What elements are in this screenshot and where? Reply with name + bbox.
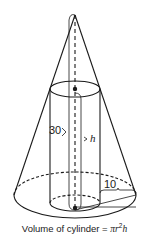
cone-right-edge xyxy=(75,15,136,195)
cone-cylinder-figure xyxy=(0,0,149,241)
label-30: 30 xyxy=(49,124,61,136)
h-bracket xyxy=(75,93,81,210)
cone-left-edge xyxy=(14,15,75,195)
top-center-dot xyxy=(73,87,77,91)
pointer-h xyxy=(84,137,87,141)
caption-prefix: Volume of cylinder = xyxy=(22,223,110,234)
base-center-dot xyxy=(73,206,77,210)
pointer-30 xyxy=(62,128,66,136)
apex-height-bracket xyxy=(69,15,75,210)
caption: Volume of cylinder = πr2h xyxy=(0,222,149,234)
label-10: 10 xyxy=(104,178,116,190)
caption-h: h xyxy=(122,224,127,234)
label-h: h xyxy=(90,132,96,144)
